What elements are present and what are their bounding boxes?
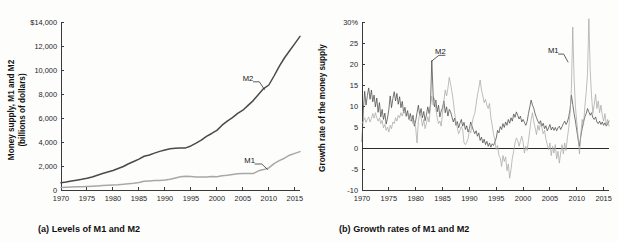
- panel-a-x-ticklabels: 1970197519801985199019952000200520102015: [53, 194, 303, 203]
- panel-b-xtick-label: 2005: [542, 194, 558, 203]
- panel-levels-m1-m2: Money supply, M1 and M2 (billions of dol…: [0, 0, 309, 242]
- panel-b-ytick-label: 30%: [343, 18, 358, 27]
- money-supply-figure: Money supply, M1 and M2 (billions of dol…: [0, 0, 618, 242]
- panel-b-ytick-label: 25: [350, 39, 358, 48]
- series-line-m1: [61, 152, 300, 188]
- panel-b-xtick-label: 2010: [569, 194, 585, 203]
- panel-b-ytick-label: 20: [350, 60, 358, 69]
- panel-b-ytick-label: 10: [350, 102, 358, 111]
- panel-b-xtick-label: 1980: [407, 194, 423, 203]
- panel-a-ytick-label: 4,000: [39, 138, 58, 147]
- panel-a-axes: [61, 22, 300, 190]
- panel-b-x-ticklabels: 1970197519801985199019952000200520102015: [354, 194, 612, 203]
- panel-b-xtick-label: 1975: [381, 194, 397, 203]
- annotation-label-m1: M1: [244, 156, 255, 165]
- panel-a-xtick-label: 2000: [209, 194, 225, 203]
- panel-a-ytick-label: 12,000: [34, 42, 57, 51]
- panel-a-xtick-label: 2015: [287, 194, 303, 203]
- panel-growth-rates-m1-m2: Growth rate of the money supply -10-5051…: [309, 0, 618, 242]
- panel-b-ytick-label: 5: [354, 123, 358, 132]
- panel-a-annotations: M2M1: [243, 74, 268, 170]
- panel-a-y-ticklabels: 02,0004,0006,0008,00010,00012,000$14,000: [30, 18, 57, 195]
- panel-b-tickmarks: [362, 22, 604, 190]
- panel-a-ytick-label: 2,000: [39, 162, 58, 171]
- panel-a-xtick-label: 1980: [105, 194, 121, 203]
- panel-b-xtick-label: 1990: [461, 194, 477, 203]
- panel-a-xtick-label: 1995: [183, 194, 199, 203]
- panel-a-ytick-label: $14,000: [30, 18, 57, 27]
- panel-a-series-group: [61, 36, 300, 187]
- panel-a-ytick-label: 8,000: [39, 90, 58, 99]
- panel-b-ytick-label: 15: [350, 81, 358, 90]
- panel-a-xtick-label: 1970: [53, 194, 69, 203]
- panel-a-xtick-label: 2010: [261, 194, 277, 203]
- annotation-leader-m1: [558, 54, 568, 62]
- panel-b-series-group: [362, 19, 609, 179]
- panel-a-ytick-label: 10,000: [34, 66, 57, 75]
- panel-a-xtick-label: 1990: [157, 194, 173, 203]
- annotation-label-m2: M2: [243, 74, 254, 83]
- panel-b-xtick-label: 2015: [595, 194, 611, 203]
- panel-b-xtick-label: 2000: [515, 194, 531, 203]
- panel-a-svg: Money supply, M1 and M2 (billions of dol…: [0, 0, 309, 242]
- panel-a-ylabel-line1: Money supply, M1 and M2: [7, 59, 16, 160]
- panel-a-xtick-label: 1975: [79, 194, 95, 203]
- panel-b-ytick-label: -5: [351, 165, 358, 174]
- panel-b-ylabel: Growth rate of the money supply: [318, 44, 327, 172]
- panel-b-xtick-label: 1970: [354, 194, 370, 203]
- panel-a-tickmarks: [61, 22, 295, 190]
- panel-a-ytick-label: 6,000: [39, 114, 58, 123]
- panel-a-ylabel-group: Money supply, M1 and M2 (billions of dol…: [7, 59, 27, 160]
- panel-b-caption: (b) Growth rates of M1 and M2: [339, 224, 469, 234]
- panel-b-xtick-label: 1995: [488, 194, 504, 203]
- panel-b-annotations: M2M1: [431, 46, 568, 62]
- panel-b-xtick-label: 1985: [434, 194, 450, 203]
- panel-b-y-ticklabels: -10-5051015202530%: [343, 18, 358, 195]
- panel-b-svg: Growth rate of the money supply -10-5051…: [309, 0, 618, 242]
- annotation-label-m2: M2: [435, 47, 446, 56]
- panel-a-caption: (a) Levels of M1 and M2: [38, 224, 140, 234]
- panel-a-xtick-label: 2005: [235, 194, 251, 203]
- panel-b-ytick-label: 0: [354, 144, 358, 153]
- panel-a-ylabel-line2: (billions of dollars): [18, 73, 27, 147]
- series-line-m2: [61, 36, 300, 182]
- panel-a-xtick-label: 1985: [131, 194, 147, 203]
- annotation-label-m1: M1: [548, 46, 559, 55]
